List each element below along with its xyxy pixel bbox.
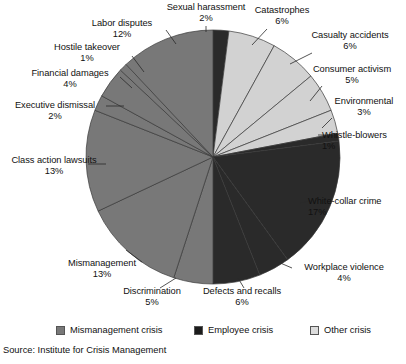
slice-label-name: White-collar crime [308,196,406,207]
legend-label: Mismanagement crisis [70,325,162,335]
slice-label-name: Labor disputes [80,18,164,29]
slice-label: Financial damages4% [22,68,118,89]
slice-label: Whistle-blowers1% [322,130,406,151]
slice-label-name: Environmental [326,96,402,107]
slice-label-percent: 6% [300,41,400,52]
slice-label: Discrimination5% [113,286,191,307]
slice-label-name: Financial damages [22,68,118,79]
slice-label-name: Discrimination [113,286,191,297]
legend-swatch-icon [56,326,65,335]
slice-label-name: Sexual harassment [158,2,254,13]
slice-label: Hostile takeover1% [44,42,130,63]
slice-label-percent: 5% [302,75,402,86]
slice-label-name: Consumer activism [302,64,402,75]
slice-label-name: Executive dismissal [4,100,106,111]
slice-label-name: Whistle-blowers [322,130,406,141]
slice-label-name: Workplace violence [288,262,400,273]
slice-label-percent: 1% [322,141,406,152]
slice-label-name: Class action lawsuits [2,155,106,166]
slice-label: Consumer activism5% [302,64,402,85]
legend-item[interactable]: Mismanagement crisis [56,325,162,335]
slice-label-percent: 2% [4,111,106,122]
slice-label-percent: 13% [2,166,106,177]
slice-label: Class action lawsuits13% [2,155,106,176]
legend-swatch-icon [310,326,319,335]
slice-label-name: Catastrophes [246,5,318,16]
slice-label: White-collar crime17% [308,196,406,217]
slice-label-percent: 3% [326,107,402,118]
slice-label-name: Defects and recalls [192,286,292,297]
slice-label: Labor disputes12% [80,18,164,39]
slice-label: Defects and recalls6% [192,286,292,307]
legend-item[interactable]: Other crisis [310,325,371,335]
slice-label: Workplace violence4% [288,262,400,283]
legend-label: Employee crisis [208,325,273,335]
slice-label: Sexual harassment2% [158,2,254,23]
slice-label: Environmental3% [326,96,402,117]
slice-label-percent: 13% [58,269,146,280]
source-note: Source: Institute for Crisis Management [3,345,166,355]
slice-label-percent: 2% [158,13,254,24]
slice-label-percent: 17% [308,207,406,218]
slice-label-percent: 6% [192,297,292,308]
slice-label-name: Casualty accidents [300,30,400,41]
pie-chart-figure: Sexual harassment2%Catastrophes6%Casualt… [0,0,406,364]
legend-item[interactable]: Employee crisis [194,325,273,335]
slice-label: Executive dismissal2% [4,100,106,121]
slice-label-percent: 4% [22,79,118,90]
slice-label-percent: 5% [113,297,191,308]
legend-swatch-icon [194,326,203,335]
slice-label-percent: 12% [80,29,164,40]
slice-label: Mismanagement13% [58,258,146,279]
slice-label: Catastrophes6% [246,5,318,26]
legend-label: Other crisis [324,325,371,335]
chart-legend: Mismanagement crisisEmployee crisisOther… [0,325,406,341]
slice-label-name: Mismanagement [58,258,146,269]
slice-label: Casualty accidents6% [300,30,400,51]
slice-label-percent: 1% [44,53,130,64]
slice-label-name: Hostile takeover [44,42,130,53]
slice-label-percent: 4% [288,273,400,284]
slice-label-percent: 6% [246,16,318,27]
